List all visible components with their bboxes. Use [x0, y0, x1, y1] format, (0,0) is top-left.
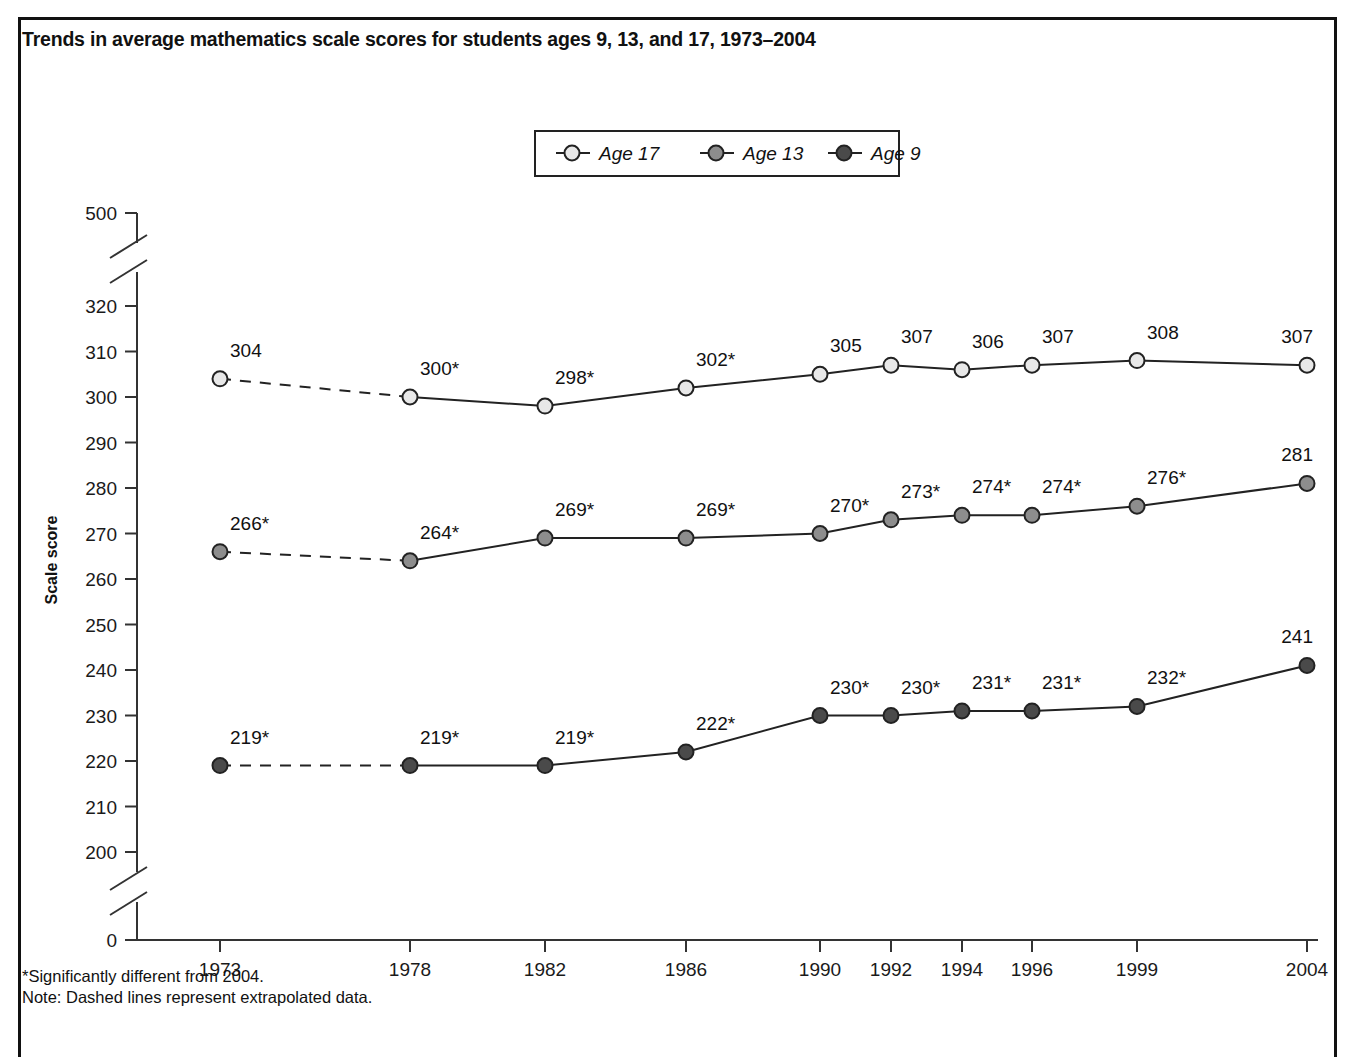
series-segment-extrapolated: [220, 552, 410, 561]
data-point-marker: [403, 553, 418, 568]
data-point-marker: [884, 512, 899, 527]
data-point-marker: [213, 758, 228, 773]
data-point-label: 269*: [555, 499, 595, 520]
data-point-marker: [813, 526, 828, 541]
data-point-marker: [1025, 508, 1040, 523]
y-tick-label: 220: [85, 751, 117, 772]
x-tick-label: 1990: [799, 959, 841, 980]
x-tick-label: 1999: [1116, 959, 1158, 980]
y-tick-label: 290: [85, 433, 117, 454]
data-point-marker: [884, 708, 899, 723]
data-point-marker: [679, 380, 694, 395]
x-tick-label: 1996: [1011, 959, 1053, 980]
y-tick-label: 310: [85, 342, 117, 363]
data-point-marker: [813, 367, 828, 382]
x-tick-label: 1978: [389, 959, 431, 980]
data-point-marker: [538, 758, 553, 773]
data-point-marker: [884, 358, 899, 373]
data-point-marker: [403, 758, 418, 773]
y-tick-label: 280: [85, 478, 117, 499]
footnote-significance: *Significantly different from 2004.: [22, 966, 372, 987]
data-point-label: 300*: [420, 358, 460, 379]
y-tick-label: 210: [85, 797, 117, 818]
data-point-label: 302*: [696, 349, 736, 370]
data-point-label: 222*: [696, 713, 736, 734]
legend-label: Age 9: [870, 143, 921, 164]
x-tick-label: 1994: [941, 959, 984, 980]
data-point-label: 306: [972, 331, 1004, 352]
series-segment-extrapolated: [220, 379, 410, 397]
data-point-marker: [1025, 358, 1040, 373]
data-point-label: 230*: [901, 677, 941, 698]
data-point-marker: [679, 531, 694, 546]
axes-layer: 3203103002902802702602502402302202102005…: [43, 203, 1329, 980]
data-point-label: 298*: [555, 367, 595, 388]
y-tick-label: 270: [85, 524, 117, 545]
data-point-label: 281: [1281, 444, 1313, 465]
data-point-label: 274*: [1042, 476, 1082, 497]
data-point-marker: [213, 371, 228, 386]
data-point-label: 219*: [230, 727, 270, 748]
y-tick-label: 230: [85, 706, 117, 727]
data-point-label: 274*: [972, 476, 1012, 497]
data-point-marker: [1025, 703, 1040, 718]
data-point-marker: [813, 708, 828, 723]
data-point-marker: [213, 544, 228, 559]
data-point-label: 231*: [1042, 672, 1082, 693]
data-point-marker: [955, 703, 970, 718]
data-point-label: 269*: [696, 499, 736, 520]
y-tick-label: 240: [85, 660, 117, 681]
data-point-label: 270*: [830, 495, 870, 516]
data-point-marker: [1300, 658, 1315, 673]
gray-circle-icon: [709, 146, 724, 161]
footnote-dashed-lines: Note: Dashed lines represent extrapolate…: [22, 987, 372, 1008]
data-point-label: 241: [1281, 626, 1313, 647]
data-point-marker: [955, 362, 970, 377]
y-tick-label: 200: [85, 842, 117, 863]
data-point-label: 231*: [972, 672, 1012, 693]
data-point-label: 304: [230, 340, 262, 361]
y-axis-title: Scale score: [43, 515, 60, 604]
data-point-marker: [1130, 353, 1145, 368]
y-tick-label-500: 500: [85, 203, 117, 224]
open-circle-icon: [565, 146, 580, 161]
line-chart: 3203103002902802702602502402302202102005…: [0, 0, 1353, 1057]
y-tick-label: 250: [85, 615, 117, 636]
data-point-marker: [1300, 476, 1315, 491]
x-tick-label: 2004: [1286, 959, 1329, 980]
data-point-label: 305: [830, 335, 862, 356]
data-point-label: 230*: [830, 677, 870, 698]
data-point-label: 307: [1042, 326, 1074, 347]
data-point-label: 219*: [555, 727, 595, 748]
data-point-label: 308: [1147, 322, 1179, 343]
series-layer: [213, 353, 1315, 773]
data-point-label: 307: [1281, 326, 1313, 347]
legend-label: Age 13: [742, 143, 804, 164]
data-point-marker: [1130, 699, 1145, 714]
x-tick-label: 1992: [870, 959, 912, 980]
data-point-label: 232*: [1147, 667, 1187, 688]
data-point-label: 266*: [230, 513, 270, 534]
data-point-marker: [538, 531, 553, 546]
data-point-label: 264*: [420, 522, 460, 543]
data-point-marker: [955, 508, 970, 523]
data-point-label: 276*: [1147, 467, 1187, 488]
data-point-marker: [679, 744, 694, 759]
x-tick-label: 1982: [524, 959, 566, 980]
data-point-label: 307: [901, 326, 933, 347]
data-point-label: 219*: [420, 727, 460, 748]
legend-label: Age 17: [598, 143, 661, 164]
data-point-marker: [403, 390, 418, 405]
dark-circle-icon: [837, 146, 852, 161]
y-tick-label-zero: 0: [106, 930, 117, 951]
footnotes: *Significantly different from 2004. Note…: [22, 966, 372, 1008]
data-point-marker: [1130, 499, 1145, 514]
x-tick-label: 1986: [665, 959, 707, 980]
y-tick-label: 320: [85, 296, 117, 317]
data-point-marker: [538, 399, 553, 414]
chart-legend: Age 17Age 13Age 9: [535, 131, 921, 176]
y-tick-label: 260: [85, 569, 117, 590]
data-point-label: 273*: [901, 481, 941, 502]
y-tick-label: 300: [85, 387, 117, 408]
data-point-marker: [1300, 358, 1315, 373]
